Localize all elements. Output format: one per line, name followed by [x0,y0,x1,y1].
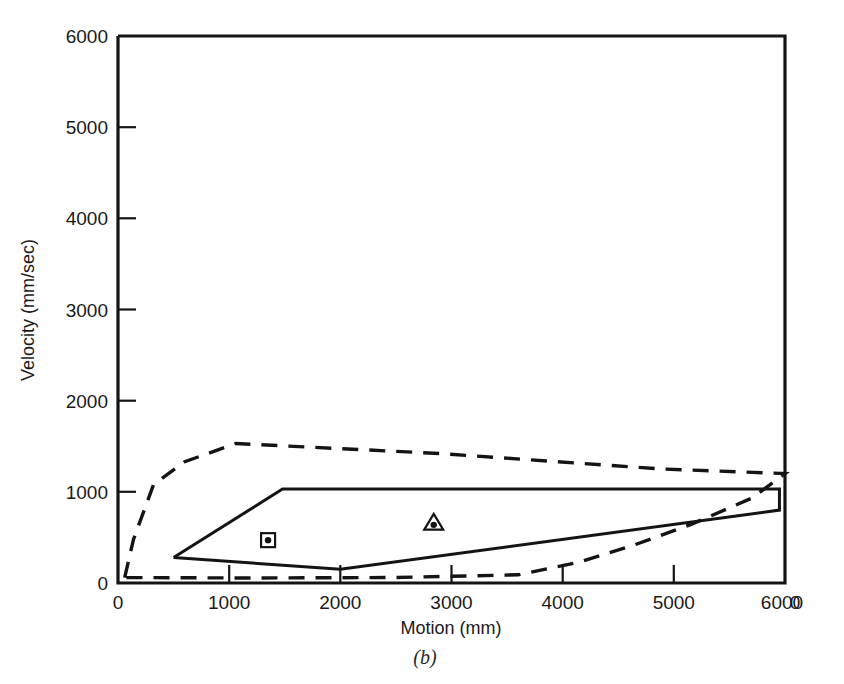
data-series-group [125,444,785,578]
x-tick-label-6000-overlap: 0 [790,592,801,613]
square-dot-marker [261,533,275,547]
marker-center-dot-icon [431,522,437,528]
velocity-motion-chart: 0 1000 2000 3000 4000 5000 6000 0 1000 2… [0,0,844,684]
x-tick-label-0: 0 [113,592,124,613]
solid-envelope-series [174,489,780,569]
data-markers-group [261,514,443,547]
x-tick-label-2000: 2000 [319,592,361,613]
figure-caption: (b) [413,646,437,669]
y-tick-label-3000: 3000 [66,300,108,321]
x-tick-label-1000: 1000 [208,592,250,613]
plot-frame [118,36,785,583]
y-axis-ticks [118,127,136,492]
y-tick-label-6000: 6000 [66,26,108,47]
x-axis-title: Motion (mm) [400,618,501,638]
y-tick-label-2000: 2000 [66,391,108,412]
y-tick-label-4000: 4000 [66,208,108,229]
triangle-dot-marker [424,514,443,530]
x-tick-label-5000: 5000 [653,592,695,613]
x-tick-labels: 0 1000 2000 3000 4000 5000 6000 0 [113,592,803,613]
y-axis-title: Velocity (mm/sec) [18,239,38,381]
dashed-envelope-series [125,444,785,578]
x-axis-ticks [229,565,674,583]
y-tick-label-0: 0 [97,573,108,594]
y-tick-label-1000: 1000 [66,482,108,503]
y-tick-labels: 0 1000 2000 3000 4000 5000 6000 [66,26,108,594]
x-tick-label-3000: 3000 [430,592,472,613]
figure-container: 0 1000 2000 3000 4000 5000 6000 0 1000 2… [0,0,844,684]
x-tick-label-4000: 4000 [542,592,584,613]
marker-center-dot-icon [265,537,271,543]
y-tick-label-5000: 5000 [66,117,108,138]
